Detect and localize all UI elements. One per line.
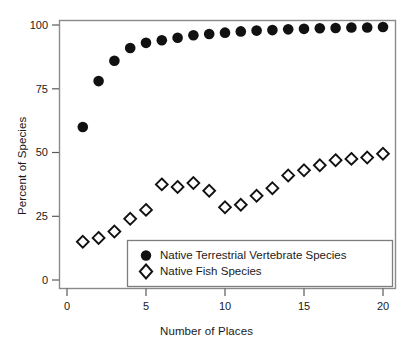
- figure-caption: [3, 339, 303, 347]
- data-point: [315, 23, 326, 34]
- data-point: [251, 25, 262, 36]
- data-point: [157, 35, 168, 46]
- data-point: [141, 38, 152, 49]
- legend-box: [128, 241, 393, 287]
- figure-container: Percent of Species Number of Places: [0, 0, 413, 349]
- data-point: [236, 26, 247, 37]
- y-tick-label-100: 100: [18, 19, 48, 31]
- y-tick-label-50: 50: [18, 146, 48, 158]
- data-point: [109, 55, 120, 66]
- legend-marker-filled-circle-icon: [141, 250, 151, 260]
- x-tick-label-20: 20: [368, 300, 398, 312]
- y-tick-label-0: 0: [18, 274, 48, 286]
- data-point: [220, 27, 231, 38]
- data-point: [378, 22, 389, 33]
- y-tick-label-25: 25: [18, 210, 48, 222]
- data-point: [283, 24, 294, 35]
- legend-label-fish: Native Fish Species: [160, 265, 262, 277]
- x-tick-label-15: 15: [289, 300, 319, 312]
- data-point: [362, 22, 373, 33]
- data-point: [267, 25, 278, 36]
- y-axis-ticks: [52, 25, 59, 280]
- x-axis-ticks: [67, 289, 383, 297]
- data-point: [299, 24, 310, 35]
- x-axis-label: Number of Places: [0, 325, 413, 337]
- y-axis-label: Percent of Species: [16, 117, 28, 215]
- data-point: [78, 122, 89, 133]
- data-point: [172, 32, 183, 43]
- scatter-plot: [0, 0, 413, 349]
- legend[interactable]: [128, 241, 393, 287]
- legend-label-terrestrial: Native Terrestrial Vertebrate Species: [160, 249, 346, 261]
- data-point: [204, 29, 215, 40]
- data-point: [93, 76, 104, 87]
- x-tick-label-10: 10: [210, 300, 240, 312]
- x-tick-label-5: 5: [131, 300, 161, 312]
- data-point: [125, 43, 136, 54]
- data-point: [346, 22, 357, 33]
- data-point: [330, 23, 341, 34]
- data-point: [188, 30, 199, 41]
- y-tick-label-75: 75: [18, 83, 48, 95]
- x-tick-label-0: 0: [52, 300, 82, 312]
